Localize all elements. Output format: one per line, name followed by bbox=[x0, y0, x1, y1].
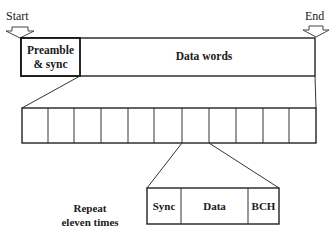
bch-field-label: BCH bbox=[252, 200, 276, 212]
frame-structure-diagram: Start End Preamble & sync Data words Rep… bbox=[0, 0, 336, 237]
end-label: End bbox=[305, 9, 324, 23]
data-field-label: Data bbox=[203, 200, 226, 212]
word-row-box bbox=[22, 108, 316, 143]
word-row bbox=[22, 108, 316, 143]
end-arrow-icon bbox=[303, 26, 329, 37]
top-frame: Preamble & sync Data words bbox=[21, 38, 315, 76]
start-label: Start bbox=[6, 9, 29, 23]
word-detail: Sync Data BCH bbox=[147, 188, 279, 224]
repeat-label-line2: eleven times bbox=[61, 216, 119, 228]
sync-field-label: Sync bbox=[153, 200, 176, 212]
sync-label: & sync bbox=[33, 58, 67, 71]
detail-line-left bbox=[147, 143, 182, 188]
preamble-label: Preamble bbox=[27, 44, 74, 56]
repeat-label-line1: Repeat bbox=[74, 202, 107, 214]
expand-line-right bbox=[315, 76, 316, 108]
detail-line-right bbox=[209, 143, 279, 188]
data-words-label: Data words bbox=[176, 50, 233, 62]
expand-line-left bbox=[22, 76, 80, 108]
start-arrow-icon bbox=[6, 27, 34, 38]
